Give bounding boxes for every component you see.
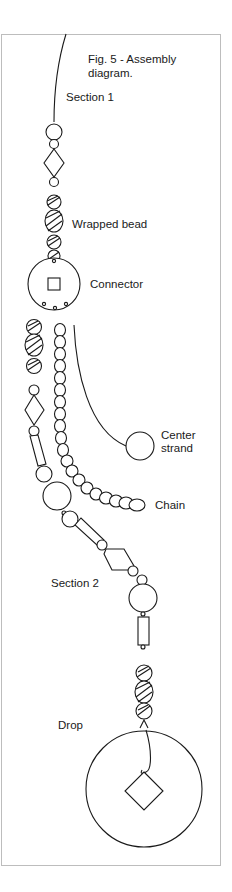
connector	[28, 258, 80, 310]
label-drop: Drop	[58, 719, 83, 731]
label-center-strand-line1: Center	[161, 429, 196, 441]
label-chain: Chain	[155, 499, 185, 511]
label-connector: Connector	[90, 278, 143, 290]
center-strand	[74, 325, 154, 460]
label-center-strand-line2: strand	[161, 442, 193, 454]
assembly-diagram: Fig. 5 - Assembly diagram. Section 1 Wra…	[0, 0, 232, 892]
chain	[55, 324, 146, 512]
figure-title-line2: diagram.	[88, 67, 133, 79]
section-1-strand	[44, 34, 66, 187]
label-section-1: Section 1	[66, 91, 114, 103]
drop	[86, 665, 202, 847]
wrapped-bead-group	[45, 195, 63, 262]
label-section-2: Section 2	[51, 577, 99, 589]
figure-title-line1: Fig. 5 - Assembly	[88, 53, 176, 65]
label-wrapped-bead: Wrapped bead	[72, 218, 147, 230]
